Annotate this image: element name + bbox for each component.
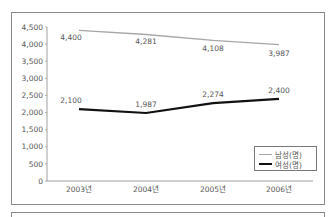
data-labels: 4,4004,2814,1083,9872,1001,9872,2742,400 <box>60 33 290 109</box>
series-line-male <box>79 30 279 44</box>
x-tick-label: 2006년 <box>266 184 292 194</box>
x-tick-label: 2004년 <box>133 184 159 194</box>
y-tick-label: 3,500 <box>22 57 44 66</box>
data-label: 3,987 <box>268 49 290 58</box>
y-tick-label: 1,500 <box>22 125 44 134</box>
data-label: 1,987 <box>135 100 157 109</box>
x-tick-label: 2005년 <box>200 184 226 194</box>
legend-swatch-female <box>259 163 272 165</box>
data-label: 4,281 <box>135 37 157 46</box>
y-tick-label: 1,000 <box>22 142 44 151</box>
legend-item-male: 남성(명) <box>259 149 302 159</box>
y-tick-label: 2,000 <box>22 108 44 117</box>
series-lines <box>79 30 279 113</box>
data-label: 2,400 <box>268 86 290 95</box>
legend-item-female: 여성(명) <box>259 159 302 169</box>
data-label: 4,108 <box>202 44 224 53</box>
y-axis-ticks: 05001,0001,5002,0002,5003,0003,5004,0004… <box>22 23 47 186</box>
y-tick-label: 3,000 <box>22 74 44 83</box>
line-chart: 05001,0001,5002,0002,5003,0003,5004,0004… <box>0 0 334 217</box>
x-axis-ticks: 2003년2004년2005년2006년 <box>66 184 292 194</box>
series-line-female <box>79 99 279 113</box>
x-tick-label: 2003년 <box>66 184 92 194</box>
data-label: 4,400 <box>60 33 82 42</box>
data-label: 2,100 <box>60 96 82 105</box>
y-tick-label: 4,500 <box>22 23 44 32</box>
y-tick-label: 0 <box>38 177 43 186</box>
y-tick-label: 4,000 <box>22 40 44 49</box>
y-tick-label: 500 <box>29 160 44 169</box>
legend: 남성(명) 여성(명) <box>254 146 317 171</box>
data-label: 2,274 <box>202 90 224 99</box>
legend-label-female: 여성(명) <box>275 159 302 170</box>
y-tick-label: 2,500 <box>22 91 44 100</box>
legend-swatch-male <box>259 154 272 155</box>
